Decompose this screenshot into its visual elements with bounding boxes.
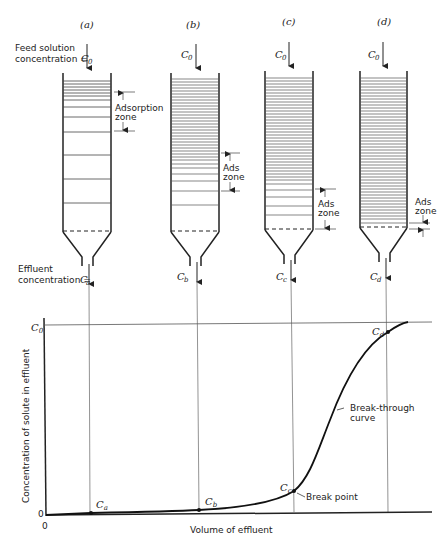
column-c-label: (c): [282, 16, 296, 27]
zone-label-a-2: zone: [115, 112, 137, 122]
feed-text-line1: Feed solution: [15, 43, 75, 53]
column-d-label: (d): [377, 16, 391, 27]
column-d: [360, 71, 407, 262]
point-label-cd: Cd: [372, 326, 385, 339]
zone-label-d-2: zone: [415, 206, 437, 216]
point-label-cc: Cc: [280, 482, 292, 495]
point-label-cb: Cb: [205, 496, 218, 509]
y-origin-label: 0: [38, 509, 44, 519]
x-origin-label: 0: [42, 521, 48, 531]
effluent-arrows: [89, 258, 386, 284]
zone-label-b-2: zone: [223, 172, 245, 182]
annotation-arrows: [297, 408, 344, 497]
feed-text-line2: concentration =: [15, 54, 88, 64]
effluent-sub-d: d: [377, 276, 382, 284]
feed-sub-c: 0: [282, 54, 287, 62]
x-axis-label: Volume of effluent: [190, 525, 273, 535]
breakthrough-curve-label-2: curve: [350, 413, 376, 423]
feed-arrows: [87, 42, 383, 68]
feed-sub-d: 0: [375, 54, 380, 62]
adsorption-zone-marker-d: [409, 215, 430, 237]
curve-points: [89, 330, 390, 515]
column-c: [265, 71, 313, 264]
effluent-text-line1: Effluent: [18, 264, 53, 274]
column-a: [63, 73, 111, 266]
column-b: [171, 73, 219, 266]
feed-sub-a: 0: [88, 58, 93, 66]
effluent-sub-b: b: [184, 276, 189, 284]
breakthrough-curve-label-1: Break-through: [350, 403, 415, 413]
y-axis-label: Concentration of solute in effluent: [21, 348, 31, 503]
zone-label-c-2: zone: [318, 208, 340, 218]
break-point-label: Break point: [306, 492, 358, 502]
effluent-sub-a: a: [86, 279, 90, 287]
y-axis-c0-label: C0: [31, 322, 44, 335]
point-label-ca: Ca: [96, 499, 108, 512]
guide-lines: [89, 278, 388, 514]
adsorption-diagram: (a) (b) (c) (d) Feed solution concentrat…: [0, 0, 447, 547]
column-a-label: (a): [80, 19, 94, 30]
column-b-label: (b): [186, 19, 200, 30]
feed-sub-b: 0: [188, 54, 193, 62]
effluent-sub-c: c: [283, 276, 287, 284]
